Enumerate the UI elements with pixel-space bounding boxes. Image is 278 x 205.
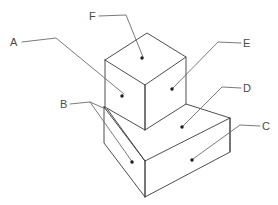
label-e: E <box>243 37 251 49</box>
technical-drawing-canvas: A B C D <box>0 0 278 205</box>
label-f: F <box>89 10 96 22</box>
face-dot-b <box>130 160 133 163</box>
base-slab <box>104 104 230 197</box>
face-dot-c <box>190 158 193 161</box>
isometric-solid-figure: A B C D <box>0 0 278 205</box>
label-b: B <box>60 98 68 110</box>
face-dot-e <box>170 87 173 90</box>
label-c: C <box>262 120 270 132</box>
face-dot-d <box>180 125 183 128</box>
face-dot-a <box>120 94 123 97</box>
label-d: D <box>243 82 251 94</box>
label-a: A <box>10 36 18 48</box>
face-dot-f <box>140 56 143 59</box>
